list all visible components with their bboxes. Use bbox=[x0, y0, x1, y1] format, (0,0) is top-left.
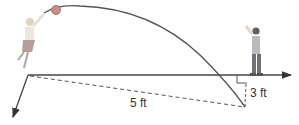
right-angle-marker bbox=[237, 75, 247, 83]
hypotenuse-label: 5 ft bbox=[130, 96, 147, 110]
boy-standing-figure bbox=[246, 26, 263, 76]
vertical-leg-label: 3 ft bbox=[250, 86, 267, 100]
down-left-axis-arrow bbox=[13, 75, 28, 117]
girl-jumping-figure bbox=[18, 14, 44, 68]
ball-trajectory-arc bbox=[44, 6, 245, 107]
diagram-canvas bbox=[0, 0, 299, 125]
dashed-vertical-leg bbox=[245, 84, 246, 107]
ball bbox=[52, 6, 61, 15]
